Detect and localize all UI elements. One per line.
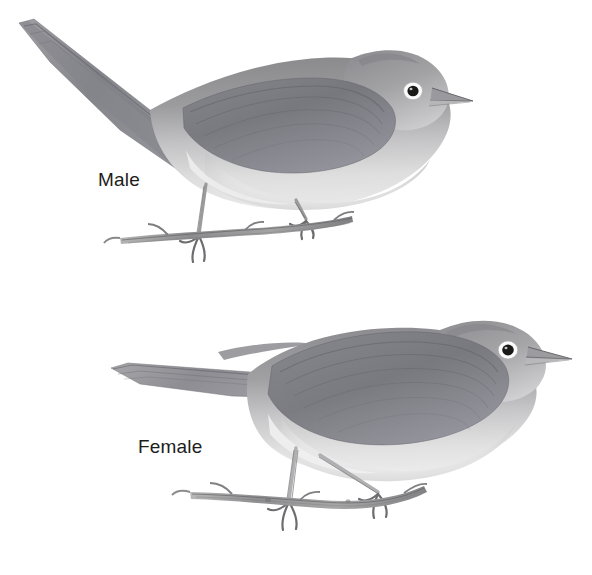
male-tail [19,19,200,170]
male-eye [404,82,423,100]
female-body [247,328,537,481]
female-legs [289,448,378,500]
male-branch [104,212,354,244]
male-body [150,58,451,210]
female-feet [268,494,387,530]
illustration-plate: Male Female [0,0,592,575]
female-head [433,321,546,403]
male-head [344,50,449,130]
male-bill [429,88,473,106]
female-branch [172,483,427,509]
female-tail [111,363,300,398]
male-leg-shading [197,186,305,233]
male-label: Male [98,170,140,189]
male-legs [199,184,306,234]
female-bill [525,347,572,365]
female-bird-group [111,321,572,530]
female-bird-figure [0,0,592,575]
male-feet [180,221,314,262]
female-scapular-streak [218,342,318,360]
female-wing [268,332,509,445]
female-label: Female [138,437,203,456]
male-bird-figure [0,0,592,575]
female-leg-shading [287,450,377,499]
male-wing [183,78,395,173]
male-bird-group [19,19,473,262]
female-eye [498,341,518,359]
